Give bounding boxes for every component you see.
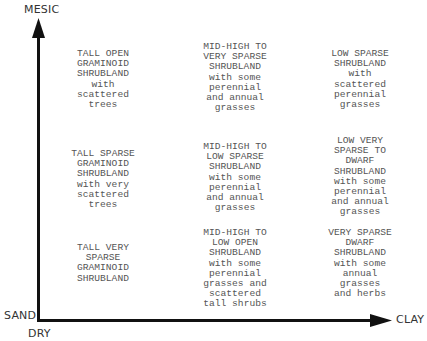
zone-tall-open-graminoid-shrubland: TALL OPEN GRAMINOID SHRUBLAND with scatt… bbox=[43, 49, 163, 110]
zone-mid-high-to-low-open-shrubland: MID-HIGH TO LOW OPEN SHRUBLAND with some… bbox=[175, 228, 295, 310]
x-axis-right-label: CLAY bbox=[396, 313, 424, 326]
y-axis-top-label: MESIC bbox=[24, 3, 59, 16]
zone-mid-high-to-very-sparse-shrubland: MID-HIGH TO VERY SPARSE SHRUBLAND with s… bbox=[175, 42, 295, 113]
zone-mid-high-to-low-sparse-shrubland: MID-HIGH TO LOW SPARSE SHRUBLAND with so… bbox=[175, 142, 295, 213]
zone-very-sparse-dwarf-shrubland: VERY SPARSE DWARF SHRUBLAND with some an… bbox=[300, 228, 420, 299]
origin-sand-label: SAND bbox=[4, 309, 36, 322]
zone-low-very-sparse-to-dwarf-shrubland: LOW VERY SPARSE TO DWARF SHRUBLAND with … bbox=[300, 136, 420, 218]
y-axis-arrowhead-icon bbox=[32, 18, 45, 38]
zone-tall-very-sparse-graminoid-shrubland: TALL VERY SPARSE GRAMINOID SHRUBLAND bbox=[43, 243, 163, 284]
zone-tall-sparse-graminoid-shrubland: TALL SPARSE GRAMINOID SHRUBLAND with ver… bbox=[43, 149, 163, 210]
origin-dry-label: DRY bbox=[28, 327, 51, 340]
zone-low-sparse-shrubland: LOW SPARSE SHRUBLAND with scattered pere… bbox=[300, 49, 420, 110]
x-axis-arrowhead-icon bbox=[370, 314, 392, 327]
